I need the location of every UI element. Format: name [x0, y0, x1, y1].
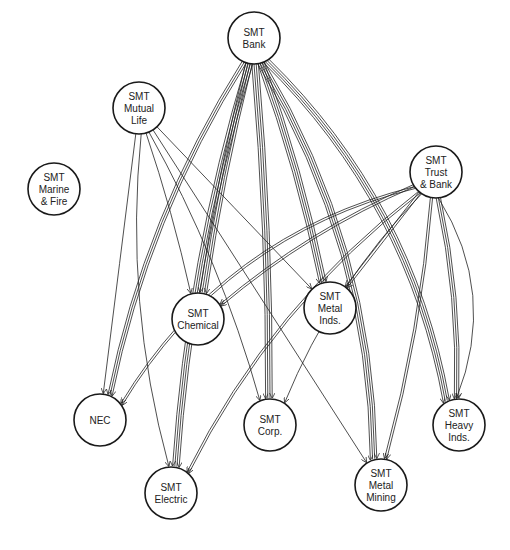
node-label: SMT: [448, 408, 469, 419]
edge-strand: [179, 64, 253, 467]
cross-shareholding-network: SMTBankSMTMutualLifeSMTMarine& FireSMTTr…: [0, 0, 510, 550]
node-label: Mining: [366, 492, 395, 503]
node-nec: NEC: [74, 394, 126, 446]
edge-strand: [385, 197, 431, 458]
node-label: Trust: [425, 167, 448, 178]
node-marine-fire: SMTMarine& Fire: [28, 163, 80, 215]
node-label: Marine: [39, 184, 70, 195]
edge-strand: [348, 193, 421, 287]
node-metal-mining: SMTMetalMining: [355, 459, 407, 511]
node-chemical: SMTChemical: [172, 293, 224, 345]
edge-bank-to-corp: [252, 64, 272, 398]
node-heavy-inds: SMTHeavyInds.: [433, 399, 485, 451]
node-label: Life: [131, 115, 148, 126]
node-label: & Fire: [41, 196, 68, 207]
edge-strand: [262, 63, 375, 459]
edge-mutual_life-to-metal_inds: [157, 127, 311, 289]
node-metal-inds: SMTMetalInds.: [304, 282, 356, 334]
node-label: SMT: [259, 414, 280, 425]
node-label: SMT: [43, 172, 64, 183]
node-trust-bank: SMTTrust& Bank: [410, 146, 462, 198]
nodes-layer: SMTBankSMTMutualLifeSMTMarine& FireSMTTr…: [28, 12, 485, 519]
node-label: SMT: [187, 308, 208, 319]
node-label: Heavy: [445, 420, 473, 431]
edge-strand: [258, 64, 320, 283]
edge-strand: [187, 191, 418, 471]
node-label: Inds.: [319, 315, 341, 326]
node-label: Metal: [369, 480, 393, 491]
edge-bank-to-metal_inds: [258, 62, 326, 283]
edge-trust_bank-to-heavy_inds: [436, 198, 459, 399]
node-label: SMT: [425, 155, 446, 166]
node-label: SMT: [160, 482, 181, 493]
edge-strand: [173, 63, 247, 466]
node-label: SMT: [370, 468, 391, 479]
node-electric: SMTElectric: [145, 467, 197, 519]
node-label: Mutual: [124, 103, 154, 114]
edge-strand: [137, 134, 169, 466]
edge-mutual_life-to-electric: [137, 134, 169, 466]
edge-strand: [436, 198, 455, 398]
node-label: Electric: [155, 494, 188, 505]
node-label: Bank: [243, 39, 267, 50]
node-label: Corp.: [258, 426, 282, 437]
node-label: SMT: [128, 91, 149, 102]
node-label: & Bank: [420, 179, 453, 190]
edge-strand: [204, 64, 250, 293]
node-label: SMT: [243, 27, 264, 38]
node-label: NEC: [89, 415, 110, 426]
edge-bank-to-chemical: [200, 63, 252, 293]
edge-strand: [269, 59, 449, 399]
node-corp: SMTCorp.: [244, 399, 296, 451]
edge-strand: [207, 64, 253, 293]
edge-strand: [175, 63, 249, 466]
node-bank: SMTBank: [228, 12, 280, 64]
node-label: SMT: [319, 291, 340, 302]
edge-strand: [157, 127, 311, 289]
edge-strand: [441, 198, 460, 398]
node-label: Chemical: [177, 320, 219, 331]
node-label: Inds.: [448, 432, 470, 443]
node-mutual-life: SMTMutualLife: [113, 82, 165, 134]
node-label: Metal: [318, 303, 342, 314]
